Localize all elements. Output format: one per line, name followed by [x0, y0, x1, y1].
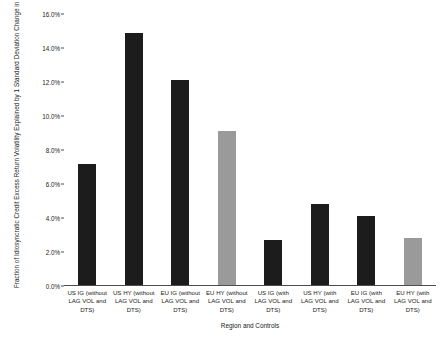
y-axis-title-text: Fraction of Idiosyncratic Credit Excess …: [13, 8, 21, 288]
bar-slot: [250, 14, 297, 286]
y-tick-label: 6.0%: [46, 181, 60, 188]
x-axis-line: [64, 285, 436, 286]
bar: [125, 33, 143, 286]
x-tick-label: US HY (with LAG VOL and DTS): [297, 289, 344, 323]
bar-slot: [204, 14, 251, 286]
bar-series: [64, 14, 436, 286]
bar: [78, 164, 96, 286]
bar-slot: [297, 14, 344, 286]
bar: [357, 216, 375, 286]
x-tick-label: EU HY (with LAG VOL and DTS): [390, 289, 437, 323]
x-tick-label: EU IG (without LAG VOL and DTS): [157, 289, 204, 323]
bar: [218, 131, 236, 286]
y-tick-label: 2.0%: [46, 249, 60, 256]
bar: [311, 204, 329, 286]
bar-chart: Fraction of Idiosyncratic Credit Excess …: [0, 0, 444, 338]
x-axis-tick-labels: US IG (without LAG VOL and DTS)US HY (wi…: [64, 289, 436, 323]
y-tick-label: 16.0%: [42, 11, 60, 18]
x-tick-label: EU IG (with LAG VOL and DTS): [343, 289, 390, 323]
y-tick-label: 10.0%: [42, 113, 60, 120]
bar: [404, 238, 422, 286]
x-tick-label: US IG (with LAG VOL and DTS): [250, 289, 297, 323]
x-tick-label: US IG (without LAG VOL and DTS): [64, 289, 111, 323]
x-axis-title: Region and Controls: [64, 322, 436, 329]
bar: [264, 240, 282, 286]
plot-area: [64, 14, 436, 286]
y-tick-label: 8.0%: [46, 147, 60, 154]
bar-slot: [390, 14, 437, 286]
y-axis-title: Fraction of Idiosyncratic Credit Excess …: [0, 0, 34, 296]
y-axis-ticks: 0.0%2.0%4.0%6.0%8.0%10.0%12.0%14.0%16.0%: [34, 0, 64, 296]
bar-slot: [343, 14, 390, 286]
y-tick-label: 12.0%: [42, 79, 60, 86]
bar-slot: [111, 14, 158, 286]
bar-slot: [64, 14, 111, 286]
y-tick-label: 14.0%: [42, 45, 60, 52]
x-tick-label: US HY (without LAG VOL and DTS): [111, 289, 158, 323]
y-tick-label: 0.0%: [46, 283, 60, 290]
bar: [171, 80, 189, 286]
x-tick-label: EU HY (without LAG VOL and DTS): [204, 289, 251, 323]
bar-slot: [157, 14, 204, 286]
y-tick-label: 4.0%: [46, 215, 60, 222]
